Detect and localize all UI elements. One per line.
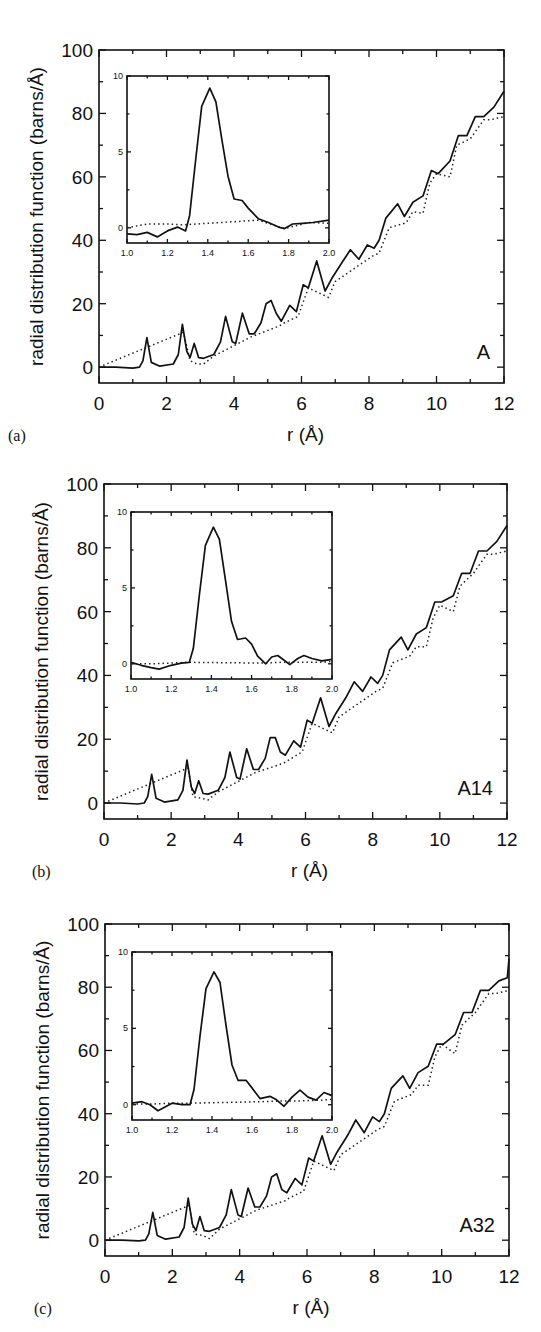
inset-b: 1.01.21.41.61.82.00510: [117, 507, 338, 694]
inset-x-tick-label: 1.0: [126, 1125, 139, 1135]
x-tick-label: 4: [229, 393, 240, 414]
panel-c: 024681012020406080100radial distribution…: [32, 914, 520, 1318]
x-tick-label: 6: [300, 829, 311, 850]
x-tick-label: 8: [367, 829, 378, 850]
inset-y-tick-label: 5: [118, 147, 123, 157]
inset-x-tick-label: 1.8: [286, 684, 299, 694]
y-tick-label: 40: [78, 1104, 99, 1125]
y-axis-label: radial distribution function (barns/Å): [31, 502, 52, 801]
x-tick-label: 4: [234, 1266, 245, 1287]
x-tick-label: 2: [166, 829, 177, 850]
sample-label: A32: [459, 1214, 495, 1236]
sample-label: A: [477, 341, 491, 363]
inset-x-tick-label: 2.0: [326, 684, 339, 694]
y-axis-label: radial distribution function (barns/Å): [32, 941, 53, 1240]
x-tick-label: 10: [426, 393, 447, 414]
inset-y-tick-label: 10: [113, 71, 123, 81]
inset-x-tick-label: 1.8: [282, 248, 295, 258]
inset-x-tick-label: 1.4: [202, 248, 215, 258]
x-axis-label: r (Å): [291, 860, 328, 881]
y-axis-label: radial distribution function (barns/Å): [26, 67, 47, 366]
inset-x-tick-label: 1.4: [205, 684, 218, 694]
inset-a: 1.01.21.41.61.82.00510: [113, 71, 335, 258]
panel-label: (c): [34, 1300, 52, 1318]
y-tick-label: 100: [61, 40, 93, 61]
inset-x-tick-label: 1.0: [125, 684, 138, 694]
inset-y-tick-label: 10: [117, 507, 127, 517]
inset-y-tick-label: 10: [118, 947, 128, 957]
inset-x-tick-label: 1.2: [161, 248, 174, 258]
x-tick-label: 2: [167, 1266, 178, 1287]
x-axis-label: r (Å): [287, 424, 324, 445]
inset-x-tick-label: 1.6: [242, 248, 255, 258]
x-tick-label: 10: [431, 1266, 452, 1287]
inset-x-tick-label: 1.6: [245, 684, 258, 694]
inset-x-tick-label: 1.2: [165, 684, 178, 694]
panel-b: 024681012020406080100radial distribution…: [31, 474, 518, 881]
y-tick-label: 80: [72, 103, 93, 124]
inset-x-tick-label: 1.4: [206, 1125, 219, 1135]
y-tick-label: 60: [78, 1040, 99, 1061]
x-tick-label: 0: [99, 829, 110, 850]
y-tick-label: 100: [66, 474, 98, 495]
x-tick-label: 6: [296, 393, 307, 414]
panel-label: (b): [32, 863, 51, 881]
panel-a: 024681012020406080100radial distribution…: [8, 40, 515, 445]
y-tick-label: 20: [72, 294, 93, 315]
inset-x-tick-label: 2.0: [323, 248, 336, 258]
sample-label: A14: [457, 777, 493, 799]
x-tick-label: 12: [496, 829, 517, 850]
inset-x-tick-label: 1.0: [121, 248, 134, 258]
inset-y-tick-label: 0: [122, 659, 127, 669]
x-tick-label: 12: [493, 393, 514, 414]
inset-x-tick-label: 1.8: [286, 1125, 299, 1135]
inset-x-tick-label: 2.0: [326, 1125, 339, 1135]
y-tick-label: 100: [67, 914, 99, 935]
inset-y-tick-label: 0: [123, 1100, 128, 1110]
x-tick-label: 8: [369, 1266, 380, 1287]
inset-c: 1.01.21.41.61.82.00510: [118, 947, 338, 1135]
x-tick-label: 4: [233, 829, 244, 850]
y-tick-label: 60: [77, 602, 98, 623]
y-tick-label: 0: [88, 1230, 99, 1251]
inset-x-tick-label: 1.2: [166, 1125, 179, 1135]
y-tick-label: 80: [77, 538, 98, 559]
x-axis-label: r (Å): [293, 1297, 330, 1318]
x-tick-label: 0: [94, 393, 105, 414]
y-tick-label: 20: [77, 729, 98, 750]
panel-label: (a): [8, 427, 26, 445]
y-tick-label: 20: [78, 1167, 99, 1188]
x-tick-label: 2: [161, 393, 172, 414]
x-tick-label: 12: [498, 1266, 519, 1287]
x-tick-label: 10: [429, 829, 450, 850]
y-tick-label: 0: [82, 357, 93, 378]
inset-y-tick-label: 5: [122, 583, 127, 593]
y-tick-label: 40: [72, 230, 93, 251]
x-tick-label: 0: [100, 1266, 111, 1287]
y-tick-label: 80: [78, 977, 99, 998]
y-tick-label: 40: [77, 665, 98, 686]
figure-canvas: 024681012020406080100radial distribution…: [0, 0, 541, 1332]
inset-y-tick-label: 5: [123, 1023, 128, 1033]
inset-y-tick-label: 0: [118, 223, 123, 233]
y-tick-label: 60: [72, 167, 93, 188]
y-tick-label: 0: [87, 793, 98, 814]
x-tick-label: 8: [364, 393, 375, 414]
x-tick-label: 6: [302, 1266, 313, 1287]
inset-x-tick-label: 1.6: [246, 1125, 259, 1135]
